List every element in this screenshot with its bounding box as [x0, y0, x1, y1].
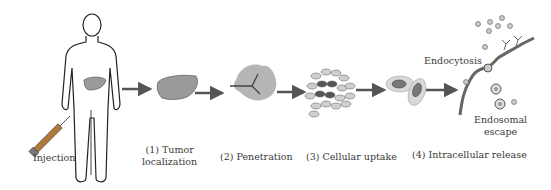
syringe-icon [29, 113, 73, 157]
liver-in-body-icon [84, 77, 106, 90]
cell-cluster-icon [305, 69, 355, 117]
injection-label: Injection [33, 152, 75, 164]
step1-label-line1: (1) Tumor [142, 144, 197, 156]
step4-label: (4) Intracellular release [412, 149, 527, 161]
endosomal-label-line1: Endosomal [474, 114, 527, 126]
step2-label: (2) Penetration [220, 151, 293, 163]
drug-delivery-diagram: Injection (1) Tumor localization (2) Pen… [0, 0, 551, 190]
single-cells-icon [386, 76, 429, 108]
penetration-icon [230, 65, 276, 101]
step1-label: (1) Tumor localization [142, 144, 197, 168]
step1-label-line2: localization [142, 156, 197, 168]
endocytosis-label: Endocytosis [424, 55, 482, 67]
step3-label: (3) Cellular uptake [306, 151, 397, 163]
endosomal-label-line2: escape [474, 126, 527, 138]
endosomal-escape-label: Endosomal escape [474, 114, 527, 138]
tumor-localization-icon [157, 75, 197, 99]
